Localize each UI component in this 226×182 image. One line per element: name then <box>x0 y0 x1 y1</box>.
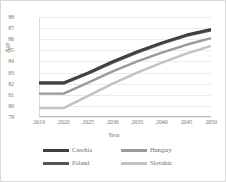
series-line-hungary <box>39 38 211 94</box>
legend-label-poland: Poland <box>72 160 89 166</box>
legend-swatch-poland <box>43 162 69 165</box>
legend-label-czechia: Czechia <box>72 147 92 153</box>
x-axis-tick-2035: 2035 <box>131 119 143 125</box>
y-axis-tick-80: 80 <box>0 103 14 109</box>
x-axis-tick-2019: 2019 <box>33 119 45 125</box>
y-axis-tick-87: 87 <box>0 25 14 31</box>
plot-area <box>39 17 211 117</box>
x-axis-tick-labels: 20192020202520302035204020452050 <box>39 119 211 129</box>
y-axis-tick-84: 84 <box>0 58 14 64</box>
y-axis-tick-88: 88 <box>0 14 14 20</box>
legend-label-hungary: Hungary <box>150 147 172 153</box>
legend-item-slovakia[interactable]: Slovakia <box>121 160 193 166</box>
x-axis-tick-2040: 2040 <box>156 119 168 125</box>
y-axis-tick-82: 82 <box>0 81 14 87</box>
y-axis-tick-83: 83 <box>0 70 14 76</box>
legend-item-hungary[interactable]: Hungary <box>121 147 193 153</box>
y-axis-tick-79: 79 <box>0 114 14 120</box>
y-axis-tick-81: 81 <box>0 92 14 98</box>
x-axis-tick-2045: 2045 <box>181 119 193 125</box>
legend-swatch-slovakia <box>121 162 147 165</box>
x-axis-title: Year <box>1 131 226 138</box>
legend-item-czechia[interactable]: Czechia <box>43 147 115 153</box>
chart-legend: CzechiaHungaryPolandSlovakia <box>43 147 193 167</box>
x-axis-tick-2030: 2030 <box>107 119 119 125</box>
x-axis-tick-2020: 2020 <box>58 119 70 125</box>
x-axis-tick-2025: 2025 <box>82 119 94 125</box>
legend-label-slovakia: Slovakia <box>150 160 172 166</box>
y-axis-title: Age <box>3 42 10 53</box>
legend-swatch-czechia <box>43 149 69 152</box>
chart-figure: 88878685848382818079 2019202020252030203… <box>0 0 226 182</box>
legend-item-poland[interactable]: Poland <box>43 160 115 166</box>
legend-swatch-hungary <box>121 149 147 152</box>
series-lines <box>39 17 211 117</box>
x-axis-tick-2050: 2050 <box>205 119 217 125</box>
